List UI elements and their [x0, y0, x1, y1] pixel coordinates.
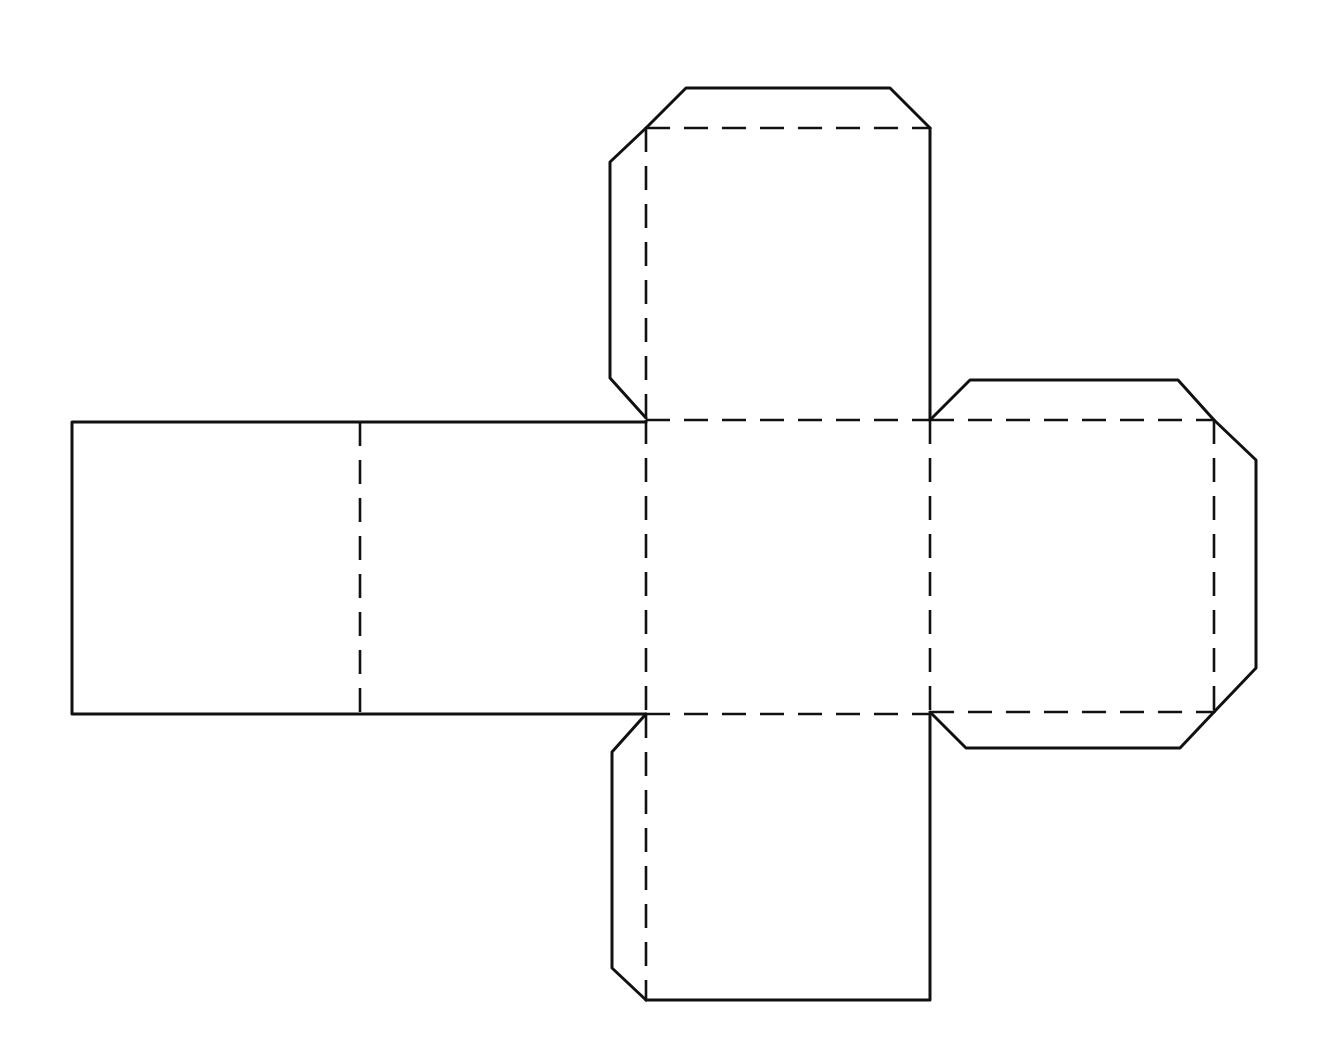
face-top [646, 128, 930, 420]
tab-top-of-right-face [930, 380, 1214, 420]
tab-left-of-bottom-face [612, 714, 646, 1000]
tab-right-of-right-face [1214, 420, 1256, 712]
tab-top-of-top-face [646, 88, 930, 128]
tab-bottom-of-right-face [930, 712, 1214, 748]
face-left-end [72, 422, 360, 714]
tab-left-of-top-face [610, 128, 646, 418]
cube-net-diagram [0, 0, 1335, 1064]
face-center [646, 420, 930, 714]
face-right [930, 420, 1214, 714]
face-left-middle [360, 422, 646, 714]
faces-layer [72, 128, 1214, 1000]
face-bottom [646, 714, 930, 1000]
